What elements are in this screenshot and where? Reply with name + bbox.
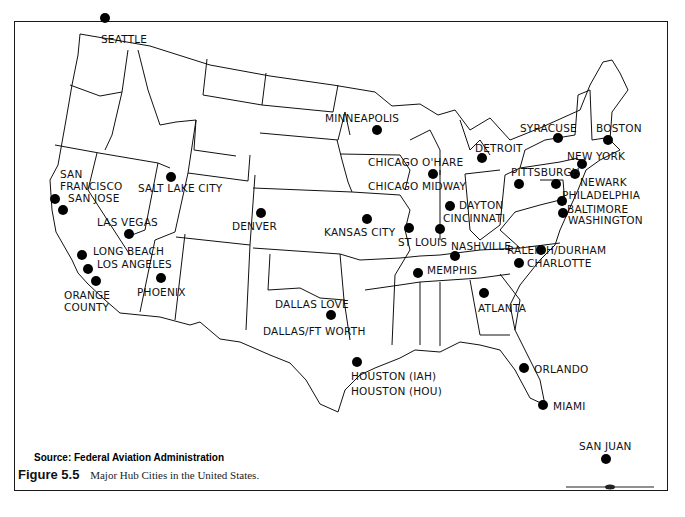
city-dot-pittsburgh (514, 179, 524, 189)
city-label-dallas-love: DALLAS LOVE (275, 298, 349, 310)
city-dot-houston-iah (352, 357, 362, 367)
city-label-washington: WASHINGTON (568, 214, 643, 226)
city-label-orange-county: ORANGECOUNTY (64, 289, 110, 313)
city-label-pittsburgh: PITTSBURGH (511, 166, 580, 178)
city-label-syracuse: SYRACUSE (520, 122, 577, 134)
city-dot-baltimore (557, 196, 567, 206)
city-dot-orange-county (91, 276, 101, 286)
city-dot-chicago-ohare (428, 169, 438, 179)
city-dot-dayton (445, 201, 455, 211)
city-dot-atlanta (479, 288, 489, 298)
city-label-nashville: NASHVILLE (451, 240, 511, 252)
city-dot-cincinnati (435, 224, 445, 234)
city-label-newark: NEWARK (580, 176, 627, 188)
city-dot-seattle (100, 13, 110, 23)
city-label-memphis: MEMPHIS (427, 264, 477, 276)
city-dot-dallas-love (326, 310, 336, 320)
city-label-houston-iah: HOUSTON (IAH) (351, 370, 436, 382)
city-dot-san-francisco (50, 194, 60, 204)
figure-label: Figure 5.5 (18, 467, 79, 482)
city-label-phoenix: PHOENIX (137, 286, 186, 298)
source-note: Source: Federal Aviation Administration (34, 452, 224, 463)
city-dot-washington (558, 208, 568, 218)
city-dot-san-jose (58, 205, 68, 215)
city-dot-phoenix (156, 273, 166, 283)
city-label-los-angeles: LOS ANGELES (97, 258, 172, 270)
city-label-raleigh-durham: RALEIGH/DURHAM (507, 244, 606, 256)
city-dot-memphis (413, 268, 423, 278)
city-dot-nashville (450, 251, 460, 261)
city-label-san-juan: SAN JUAN (579, 440, 632, 452)
city-dot-miami (538, 400, 548, 410)
city-dot-detroit (477, 153, 487, 163)
city-label-dallas-ft-worth: DALLAS/FT WORTH (263, 325, 366, 337)
city-dot-las-vegas (124, 229, 134, 239)
city-dot-denver (256, 208, 266, 218)
city-label-boston: BOSTON (596, 122, 642, 134)
city-label-chicago-ohare: CHICAGO O'HARE (368, 156, 463, 168)
city-dot-long-beach (77, 250, 87, 260)
city-label-dayton: DAYTON (459, 199, 503, 211)
city-label-chicago-midway: CHICAGO MIDWAY (368, 180, 466, 192)
city-dot-orlando (519, 363, 529, 373)
city-dot-charlotte (514, 258, 524, 268)
city-label-cincinnati: CINCINNATI (443, 212, 505, 224)
city-label-kansas-city: KANSAS CITY (324, 226, 395, 238)
city-label-orlando: ORLANDO (534, 363, 588, 375)
city-label-minneapolis: MINNEAPOLIS (325, 112, 399, 124)
city-label-detroit: DETROIT (475, 142, 523, 154)
city-label-las-vegas: LAS VEGAS (97, 216, 158, 228)
city-dot-kansas-city (362, 214, 372, 224)
city-label-san-francisco: SANFRANCISCO (60, 168, 122, 192)
city-dot-los-angeles (83, 264, 93, 274)
city-label-charlotte: CHARLOTTE (527, 257, 592, 269)
city-label-new-york: NEW YORK (567, 150, 625, 162)
city-dot-st-louis (404, 223, 414, 233)
city-label-miami: MIAMI (553, 400, 586, 412)
city-dot-salt-lake-city (166, 172, 176, 182)
city-label-st-louis: ST LOUIS (398, 236, 447, 248)
city-dot-syracuse (553, 133, 563, 143)
page-ornament (566, 485, 654, 490)
city-label-denver: DENVER (232, 220, 277, 232)
city-label-seattle: SEATTLE (101, 33, 147, 45)
city-label-long-beach: LONG BEACH (93, 245, 164, 257)
city-label-philadelphia: PHILADELPHIA (562, 189, 640, 201)
figure-caption: Figure 5.5 Major Hub Cities in the Unite… (18, 467, 259, 482)
city-label-houston-hou: HOUSTON (HOU) (351, 385, 442, 397)
city-dot-philadelphia (551, 179, 561, 189)
figure-title: Major Hub Cities in the United States. (90, 469, 259, 481)
city-label-atlanta: ATLANTA (478, 302, 526, 314)
city-label-san-jose: SAN JOSE (68, 192, 120, 204)
city-dot-boston (603, 135, 613, 145)
city-label-salt-lake-city: SALT LAKE CITY (138, 182, 222, 194)
city-dot-minneapolis (372, 125, 382, 135)
city-dot-san-juan (601, 454, 611, 464)
